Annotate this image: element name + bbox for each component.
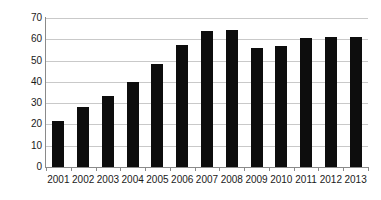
x-axis-tick-mark [46, 167, 47, 171]
bar-2013 [350, 37, 362, 167]
bar-2007 [201, 31, 213, 167]
x-axis-tick-mark [219, 167, 220, 171]
x-axis-tick-label: 2005 [145, 174, 170, 186]
bar-2003 [102, 96, 114, 167]
x-axis-tick-label: 2012 [318, 174, 343, 186]
x-axis-tick-label: 2006 [170, 174, 195, 186]
x-axis-tick-mark [120, 167, 121, 171]
x-axis-tick-label: 2011 [294, 174, 319, 186]
bar-2009 [251, 48, 263, 167]
y-axis-tick-label: 40 [2, 77, 42, 87]
x-axis-tick-label: 2004 [120, 174, 145, 186]
x-axis-tick-labels: 2001200220032004200520062007200820092010… [46, 174, 368, 190]
x-axis-tick-mark [96, 167, 97, 171]
x-axis-tick-label: 2001 [46, 174, 71, 186]
y-axis-tick-label: 0 [2, 162, 42, 172]
x-axis-tick-mark [269, 167, 270, 171]
bar-2012 [325, 37, 337, 167]
x-axis-tick-label: 2007 [195, 174, 220, 186]
bar-2005 [151, 64, 163, 167]
bar-2002 [77, 107, 89, 167]
y-axis-line [45, 17, 46, 168]
y-axis-tick-labels: 010203040506070 [0, 18, 42, 167]
y-axis-tick-label: 10 [2, 141, 42, 151]
bar-chart: 010203040506070 200120022003200420052006… [0, 0, 381, 200]
x-axis-tick-mark [343, 167, 344, 171]
x-axis-tick-mark [368, 167, 369, 171]
x-axis-tick-label: 2010 [269, 174, 294, 186]
y-axis-tick-label: 50 [2, 56, 42, 66]
x-axis-tick-label: 2013 [343, 174, 368, 186]
bar-2010 [275, 46, 287, 167]
x-axis-tick-label: 2009 [244, 174, 269, 186]
bar-2004 [127, 82, 139, 167]
gridline [46, 18, 368, 19]
bar-2001 [52, 121, 64, 167]
x-axis-tick-mark [195, 167, 196, 171]
x-axis-tick-mark [71, 167, 72, 171]
y-axis-tick-label: 60 [2, 34, 42, 44]
x-axis-tick-label: 2003 [96, 174, 121, 186]
bar-2011 [300, 38, 312, 167]
x-axis-tick-label: 2008 [219, 174, 244, 186]
x-axis-tick-mark [294, 167, 295, 171]
bar-2006 [176, 45, 188, 167]
x-axis-tick-mark [170, 167, 171, 171]
plot-area [46, 18, 368, 167]
x-axis-tick-mark [145, 167, 146, 171]
y-axis-tick-label: 70 [2, 13, 42, 23]
bar-2008 [226, 30, 238, 167]
y-axis-tick-label: 30 [2, 98, 42, 108]
x-axis-tick-label: 2002 [71, 174, 96, 186]
y-axis-tick-label: 20 [2, 119, 42, 129]
x-axis-tick-mark [318, 167, 319, 171]
x-axis-tick-mark [244, 167, 245, 171]
x-axis-line [45, 167, 369, 168]
